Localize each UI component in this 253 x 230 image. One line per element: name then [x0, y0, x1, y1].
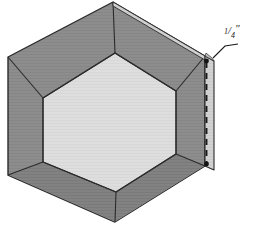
stitch-endpoint-bottom-dot	[204, 162, 209, 167]
callout-leader-line	[213, 44, 238, 58]
seam-allowance-label: 1/4"	[224, 22, 240, 40]
hexagon-seam-diagram: 1/4"	[0, 0, 253, 230]
stitch-endpoint-top-dot	[204, 59, 209, 64]
diagram-canvas: 1/4"	[0, 0, 253, 230]
fraction-unit: "	[235, 22, 240, 34]
seam-allowance-label-text: 1/4"	[224, 22, 240, 40]
